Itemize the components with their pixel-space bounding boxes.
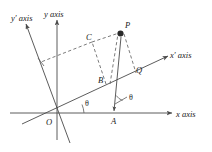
angle-arc-at-a <box>115 96 127 105</box>
point-c-label-text: C <box>86 32 92 42</box>
segment-p-to-a-arrow <box>114 37 121 111</box>
rotated-axes-figure: y′ axis y axis x′ axis x axis P C Q B A … <box>0 0 212 152</box>
point-a-label-text: A <box>111 116 116 126</box>
x-axis-label: x axis <box>176 110 196 119</box>
point-p-label: P <box>125 21 130 30</box>
y-axis-label-text: y axis <box>44 9 64 19</box>
point-c-label: C <box>86 33 92 42</box>
point-o-label: O <box>46 118 52 127</box>
point-q-label: Q <box>136 66 142 75</box>
y-prime-axis-label: y′ axis <box>11 14 32 23</box>
point-p-marker <box>117 31 123 37</box>
segment-p-to-q <box>124 34 136 73</box>
angle-theta-origin-text: θ <box>85 99 89 108</box>
point-b-label-text: B <box>98 75 103 85</box>
y-prime-axis-label-text: y′ axis <box>11 13 32 23</box>
angle-theta-origin-label: θ <box>85 100 89 108</box>
point-b-label: B <box>98 76 103 85</box>
segment-b-to-p <box>110 34 118 84</box>
segment-c-to-yprime <box>41 42 92 62</box>
x-prime-axis-label: x′ axis <box>170 51 191 60</box>
x-prime-axis-line <box>22 56 168 124</box>
point-a-label: A <box>111 117 116 126</box>
y-axis-label: y axis <box>44 10 64 19</box>
angle-arc-at-origin <box>82 105 84 114</box>
point-q-label-text: Q <box>136 65 142 75</box>
angle-theta-at-a-label: θ <box>129 94 133 102</box>
angle-theta-at-a-text: θ <box>129 93 133 102</box>
point-p-label-text: P <box>125 20 130 30</box>
x-axis-label-text: x axis <box>176 109 196 119</box>
point-o-label-text: O <box>46 117 52 127</box>
x-prime-axis-label-text: x′ axis <box>170 50 191 60</box>
